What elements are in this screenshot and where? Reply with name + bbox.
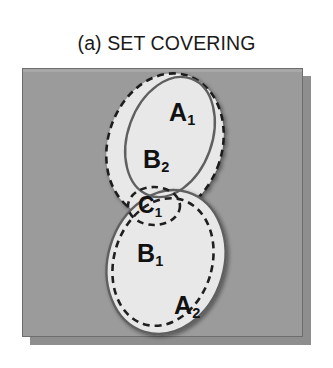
set-label-B2: B2 (143, 147, 169, 172)
set-label-B1: B1 (137, 241, 163, 266)
set-covering-figure: (a) SET COVERING EXAMPLE (0, 0, 333, 368)
set-label-B1-subscript: 1 (155, 253, 163, 269)
figure-caption-line-1: (a) SET COVERING (0, 31, 333, 56)
set-label-B2-subscript: 2 (161, 159, 169, 175)
panel-highlight-edge (23, 69, 302, 72)
universe-panel (22, 68, 303, 337)
set-label-A1: A1 (169, 100, 195, 125)
set-label-B2-letter: B (143, 145, 161, 173)
set-label-A2-letter: A (174, 291, 192, 319)
set-label-A1-letter: A (169, 98, 187, 126)
set-label-A2-subscript: 2 (192, 305, 200, 321)
set-label-A1-subscript: 1 (187, 112, 195, 128)
set-label-C1: C1 (138, 194, 162, 217)
set-label-C1-letter: C (138, 192, 155, 218)
set-label-B1-letter: B (137, 239, 155, 267)
set-label-A2: A2 (174, 293, 200, 318)
set-label-C1-subscript: 1 (155, 205, 162, 220)
